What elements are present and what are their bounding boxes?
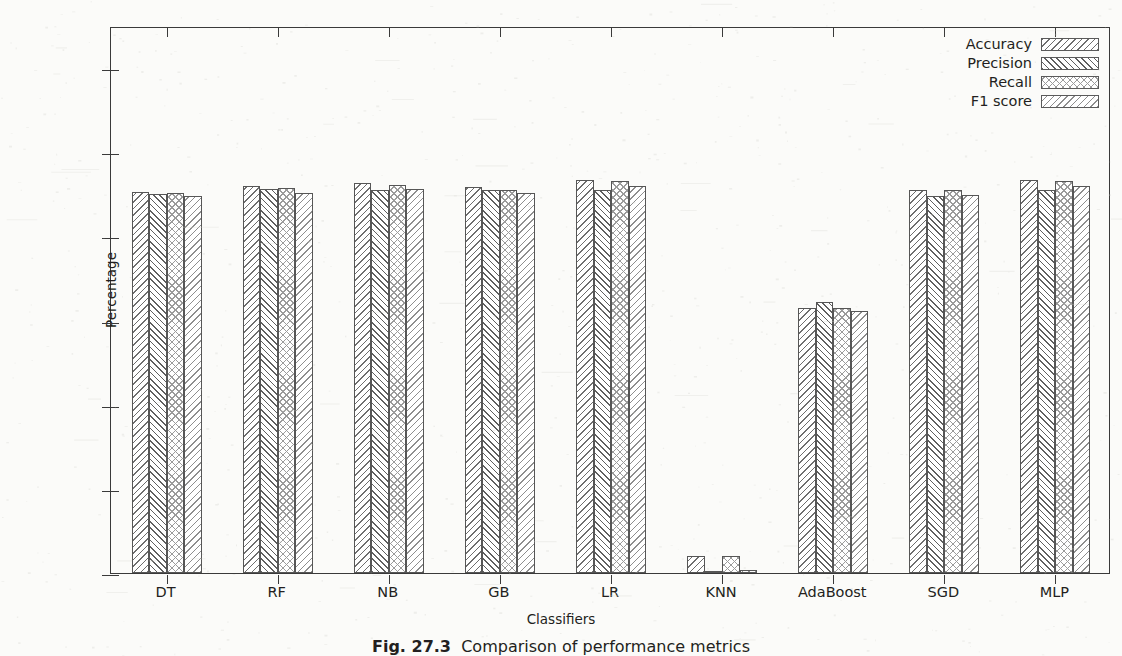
y-axis-tick — [102, 323, 111, 324]
legend-swatch — [1041, 38, 1099, 51]
bar-nb-precision — [371, 190, 389, 573]
legend-swatch — [1041, 57, 1099, 70]
bar-adaboost-f1-score — [851, 311, 869, 573]
x-axis-tick — [833, 575, 834, 584]
x-axis-tick-top — [833, 28, 834, 37]
bar-knn-f1-score — [740, 570, 758, 573]
x-axis-tick — [278, 575, 279, 584]
x-axis-tick-top — [944, 28, 945, 37]
caption-label: Fig. 27.3 — [372, 637, 451, 656]
bar-gb-recall — [500, 190, 518, 573]
x-axis-tick-label: MLP — [1040, 584, 1069, 600]
legend-item-accuracy: Accuracy — [966, 36, 1099, 52]
bar-knn-recall — [722, 556, 740, 573]
y-axis-tick-inner — [111, 491, 119, 492]
y-axis-tick-inner — [111, 323, 119, 324]
bar-nb-accuracy — [354, 183, 372, 573]
x-axis-tick-label: RF — [267, 584, 285, 600]
y-axis-tick — [102, 154, 111, 155]
y-axis-tick — [102, 575, 111, 576]
y-axis-title: Percentage — [103, 252, 119, 328]
bar-dt-recall — [167, 193, 185, 573]
bar-dt-precision — [149, 194, 167, 573]
legend-item-f1-score: F1 score — [966, 93, 1099, 109]
x-axis-tick-top — [167, 28, 168, 37]
x-axis-tick — [944, 575, 945, 584]
plot-frame: Percentage AccuracyPrecisionRecallF1 sco… — [110, 27, 1110, 574]
x-axis-title: Classifiers — [0, 611, 1122, 627]
bar-adaboost-accuracy — [798, 308, 816, 573]
bar-dt-accuracy — [132, 192, 150, 573]
x-axis-tick — [722, 575, 723, 584]
bar-adaboost-precision — [816, 302, 834, 573]
legend-swatch — [1041, 95, 1099, 108]
bar-mlp-f1-score — [1073, 186, 1091, 573]
bar-gb-accuracy — [465, 187, 483, 573]
bar-lr-f1-score — [629, 186, 647, 573]
bar-sgd-accuracy — [909, 190, 927, 573]
x-axis-tick — [500, 575, 501, 584]
x-axis-tick-top — [722, 28, 723, 37]
y-axis-tick — [102, 70, 111, 71]
x-axis-tick-label: AdaBoost — [798, 584, 867, 600]
x-axis-tick-top — [278, 28, 279, 37]
x-axis-tick-top — [611, 28, 612, 37]
bar-knn-precision — [705, 571, 723, 573]
y-axis-tick-inner — [111, 70, 119, 71]
bar-mlp-accuracy — [1020, 180, 1038, 573]
figure-container: Percentage AccuracyPrecisionRecallF1 sco… — [0, 0, 1122, 656]
bar-gb-precision — [482, 190, 500, 573]
legend-label: Recall — [989, 74, 1032, 90]
x-axis-tick-label: DT — [156, 584, 176, 600]
x-axis-tick-label: SGD — [928, 584, 960, 600]
y-axis-tick-inner — [111, 238, 119, 239]
y-axis-tick — [102, 238, 111, 239]
y-axis-tick — [102, 407, 111, 408]
caption-text: Comparison of performance metrics — [461, 637, 750, 656]
bar-rf-accuracy — [243, 186, 261, 573]
bar-adaboost-recall — [833, 308, 851, 573]
bar-sgd-f1-score — [962, 195, 980, 573]
bar-dt-f1-score — [184, 196, 202, 573]
legend-item-precision: Precision — [966, 55, 1099, 71]
figure-caption: Fig. 27.3 Comparison of performance metr… — [0, 637, 1122, 656]
bar-lr-accuracy — [576, 180, 594, 573]
bar-knn-accuracy — [687, 556, 705, 573]
x-axis-tick-label: KNN — [706, 584, 737, 600]
bar-rf-recall — [278, 188, 296, 573]
legend-item-recall: Recall — [966, 74, 1099, 90]
bar-lr-precision — [594, 190, 612, 573]
x-axis-tick-label: GB — [488, 584, 509, 600]
legend-label: Accuracy — [966, 36, 1032, 52]
x-axis-tick-label: LR — [601, 584, 619, 600]
plot-area — [111, 28, 1109, 573]
bar-rf-f1-score — [295, 193, 313, 573]
x-axis-tick-top — [389, 28, 390, 37]
bar-gb-f1-score — [517, 193, 535, 573]
legend-label: Precision — [967, 55, 1032, 71]
y-axis-tick — [102, 491, 111, 492]
x-axis-tick — [1055, 575, 1056, 584]
x-axis-tick — [611, 575, 612, 584]
y-axis-tick-inner — [111, 575, 119, 576]
legend-swatch — [1041, 76, 1099, 89]
bar-mlp-precision — [1038, 190, 1056, 573]
y-axis-tick-inner — [111, 407, 119, 408]
x-axis-tick — [167, 575, 168, 584]
bar-nb-recall — [389, 185, 407, 573]
x-axis-tick-top — [500, 28, 501, 37]
legend-label: F1 score — [971, 93, 1032, 109]
bar-nb-f1-score — [406, 189, 424, 573]
x-axis-tick-top — [1055, 28, 1056, 37]
chart-legend: AccuracyPrecisionRecallF1 score — [964, 34, 1103, 111]
y-axis-tick-inner — [111, 154, 119, 155]
bar-sgd-precision — [927, 196, 945, 573]
x-axis-tick-label: NB — [377, 584, 398, 600]
bar-sgd-recall — [944, 190, 962, 573]
bar-mlp-recall — [1055, 181, 1073, 573]
bar-lr-recall — [611, 181, 629, 573]
x-axis-tick — [389, 575, 390, 584]
bar-rf-precision — [260, 189, 278, 573]
